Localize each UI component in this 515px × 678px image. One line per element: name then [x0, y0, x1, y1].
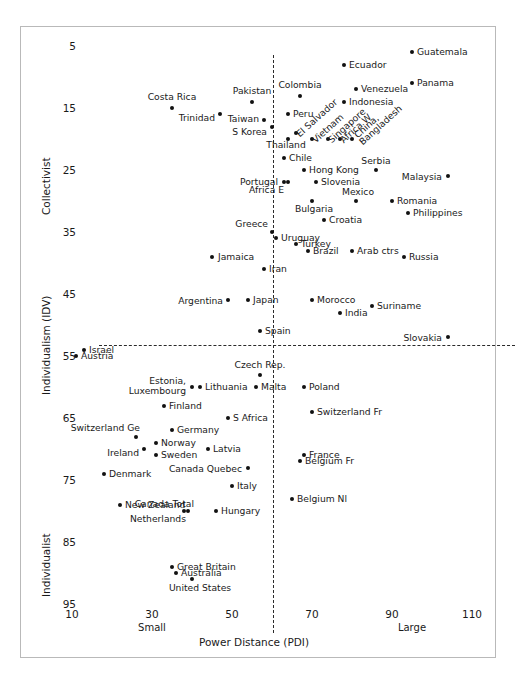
point-label: Malta — [261, 382, 286, 392]
data-point[interactable] — [206, 447, 210, 451]
point-label: Canada Total — [135, 499, 194, 509]
data-point[interactable] — [210, 255, 214, 259]
point-label: Latvia — [213, 444, 241, 454]
x-axis-title: Power Distance (PDI) — [0, 636, 508, 648]
data-point[interactable] — [298, 94, 302, 98]
y-tick-label: 75 — [52, 474, 76, 486]
data-point[interactable] — [246, 466, 250, 470]
point-label: Ecuador — [349, 60, 387, 70]
data-point[interactable] — [258, 373, 262, 377]
data-point[interactable] — [102, 472, 106, 476]
data-point[interactable] — [162, 404, 166, 408]
point-label: Venezuela — [361, 84, 408, 94]
point-label: S Africa — [233, 413, 268, 423]
point-label: Netherlands — [130, 514, 186, 524]
data-point[interactable] — [342, 63, 346, 67]
y-tick-label: 25 — [52, 164, 76, 176]
data-point[interactable] — [390, 199, 394, 203]
point-label: Russia — [409, 252, 439, 262]
point-label: Austria — [81, 351, 113, 361]
data-point[interactable] — [374, 168, 378, 172]
point-label: Serbia — [361, 156, 390, 166]
point-label: Germany — [177, 425, 219, 435]
point-label: Slovakia — [403, 333, 442, 343]
data-point[interactable] — [302, 168, 306, 172]
y-axis-label-individualist: Individualist — [40, 533, 52, 597]
point-label: Suriname — [377, 301, 421, 311]
data-point[interactable] — [342, 100, 346, 104]
data-point[interactable] — [338, 311, 342, 315]
data-point[interactable] — [170, 106, 174, 110]
x-tick-label: 10 — [52, 608, 92, 620]
point-label: Australia — [181, 568, 222, 578]
data-point[interactable] — [350, 249, 354, 253]
point-label: Mexico — [342, 187, 374, 197]
point-label: Czech Rep. — [234, 360, 285, 370]
y-axis-title: Individualism (IDV) — [40, 296, 52, 395]
data-point[interactable] — [290, 497, 294, 501]
data-point[interactable] — [118, 503, 122, 507]
x-tick-label: 50 — [212, 608, 252, 620]
data-point[interactable] — [142, 447, 146, 451]
point-label: Finland — [169, 401, 202, 411]
y-tick-label: 45 — [52, 288, 76, 300]
data-point[interactable] — [214, 509, 218, 513]
point-label: Romania — [397, 196, 437, 206]
point-label: Denmark — [109, 469, 151, 479]
data-point[interactable] — [134, 435, 138, 439]
point-label: Sweden — [161, 450, 197, 460]
data-point[interactable] — [310, 410, 314, 414]
y-tick-label: 85 — [52, 536, 76, 548]
point-label: Indonesia — [349, 97, 393, 107]
point-label: Colombia — [278, 80, 321, 90]
data-point[interactable] — [282, 156, 286, 160]
point-label: Arab ctrs — [357, 246, 399, 256]
point-label: Lithuania — [205, 382, 248, 392]
data-point[interactable] — [270, 230, 274, 234]
x-tick-label: 70 — [292, 608, 332, 620]
point-label: Ireland — [107, 448, 139, 458]
point-label: Belgium Nl — [297, 494, 347, 504]
y-tick-label: 55 — [52, 350, 76, 362]
point-label: Pakistan — [233, 86, 271, 96]
point-label: Norway — [161, 438, 196, 448]
point-label: Panama — [417, 78, 454, 88]
data-point[interactable] — [302, 385, 306, 389]
reference-line-horizontal — [99, 345, 515, 346]
y-tick-label: 15 — [52, 102, 76, 114]
point-label: Malaysia — [402, 172, 442, 182]
point-label: Trinidad — [179, 113, 215, 123]
data-point[interactable] — [198, 385, 202, 389]
point-label: India — [345, 308, 368, 318]
point-label: Morocco — [317, 295, 355, 305]
data-point[interactable] — [154, 441, 158, 445]
y-axis-label-collectivist: Collectivist — [40, 157, 52, 215]
point-label: United States — [169, 583, 231, 593]
data-point[interactable] — [226, 416, 230, 420]
point-label: Philippines — [413, 208, 463, 218]
point-label: Italy — [237, 481, 257, 491]
point-label: Brazil — [313, 246, 339, 256]
x-tick-label: 30 — [132, 608, 172, 620]
point-label: S Korea — [232, 127, 267, 137]
point-label: Jamaica — [218, 252, 254, 262]
data-point[interactable] — [322, 218, 326, 222]
point-label: Spain — [265, 326, 291, 336]
data-point[interactable] — [270, 125, 274, 129]
point-label: Poland — [309, 382, 340, 392]
data-point[interactable] — [250, 100, 254, 104]
x-tick-label: 90 — [372, 608, 412, 620]
data-point[interactable] — [402, 255, 406, 259]
data-point[interactable] — [354, 199, 358, 203]
data-point[interactable] — [254, 385, 258, 389]
data-point[interactable] — [170, 565, 174, 569]
x-axis-label-small: Small — [122, 622, 182, 633]
point-label: Belgium Fr — [305, 456, 354, 466]
point-label: Japan — [253, 295, 279, 305]
y-tick-label: 65 — [52, 412, 76, 424]
point-label: Croatia — [329, 215, 362, 225]
data-point[interactable] — [186, 509, 190, 513]
data-point[interactable] — [190, 385, 194, 389]
point-label: Switzerland Ge — [71, 423, 140, 433]
point-label: Taiwan — [228, 114, 259, 124]
